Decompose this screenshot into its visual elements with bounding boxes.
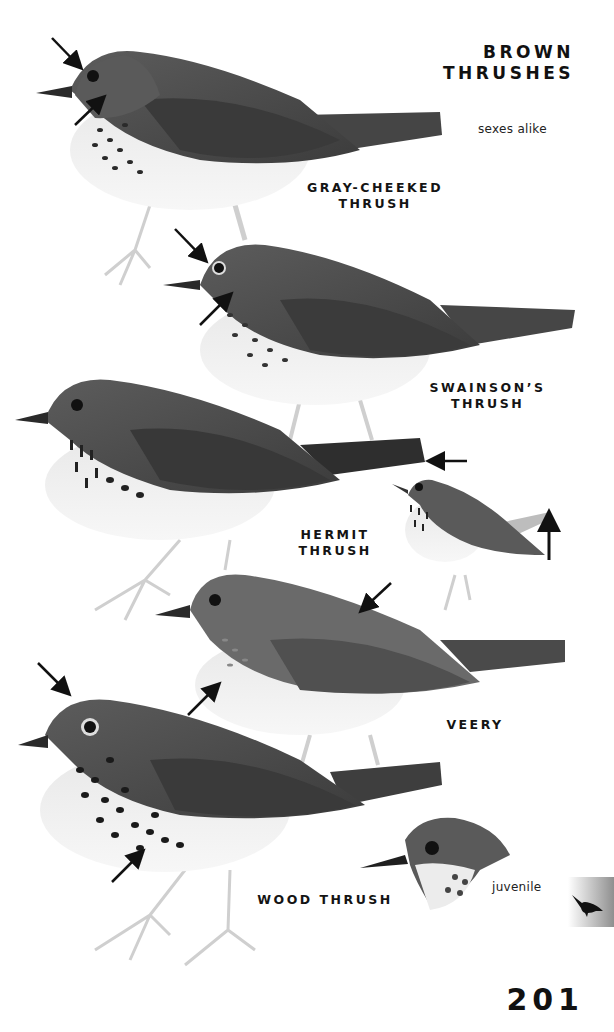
section-title-line-2: THRUSHES <box>443 63 574 84</box>
thrush-silhouette-icon <box>570 893 606 917</box>
page-number: 201 <box>506 982 584 1017</box>
sexes-alike-note: sexes alike <box>478 122 547 136</box>
species-label-wood-thrush: WOOD THRUSH <box>255 892 395 908</box>
species-label-gray-cheeked-thrush: GRAY-CHEEKED THRUSH <box>305 180 445 211</box>
bird-illustrations <box>0 0 614 1032</box>
species-label-line: SWAINSON’S <box>420 380 555 396</box>
species-label-line: VEERY <box>440 717 510 733</box>
species-label-line: THRUSH <box>420 396 555 412</box>
species-label-line: WOOD THRUSH <box>255 892 395 908</box>
field-guide-page: BROWN THRUSHES sexes alike GRAY-CHEEKED … <box>0 0 614 1032</box>
hermit-thrush-small-illustration <box>392 480 553 610</box>
section-title-line-1: BROWN <box>443 42 574 63</box>
juvenile-label: juvenile <box>492 880 541 894</box>
species-label-hermit-thrush: HERMIT THRUSH <box>265 527 405 558</box>
species-label-line: HERMIT THRUSH <box>265 527 405 558</box>
species-label-line: GRAY-CHEEKED <box>305 180 445 196</box>
section-title: BROWN THRUSHES <box>443 42 574 85</box>
species-label-veery: VEERY <box>440 717 510 733</box>
species-label-line: THRUSH <box>305 196 445 212</box>
section-thumb-tab <box>568 877 614 927</box>
species-label-swainsons-thrush: SWAINSON’S THRUSH <box>420 380 555 411</box>
